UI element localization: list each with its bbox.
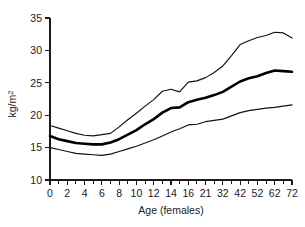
x-tick-label: 0 [47, 187, 53, 199]
x-axis-ticks [50, 180, 292, 185]
y-axis-title-exponent: 2 [6, 91, 15, 95]
axes-group [50, 18, 292, 180]
median-curve [50, 70, 292, 144]
x-tick-label: 14 [165, 187, 177, 199]
y-tick-label: 30 [30, 44, 42, 56]
y-tick-label: 15 [30, 141, 42, 153]
x-tick-label: 42 [234, 187, 246, 199]
y-tick-label: 10 [30, 174, 42, 186]
lower-centile-curve [50, 105, 292, 156]
y-axis-title: kg/m2 [6, 91, 19, 118]
chart-plot-area: 101520253035 0246810121416213242526272 A… [0, 0, 305, 227]
x-tick-label: 2 [64, 187, 70, 199]
x-tick-label: 12 [148, 187, 160, 199]
x-tick-label: 52 [252, 187, 264, 199]
x-tick-label: 6 [99, 187, 105, 199]
y-axis-ticks [45, 18, 50, 180]
y-axis-title-base: kg/m [6, 94, 18, 117]
y-tick-label: 20 [30, 109, 42, 121]
x-tick-label: 32 [217, 187, 229, 199]
upper-centile-curve [50, 32, 292, 136]
x-tick-label: 72 [286, 187, 298, 199]
y-axis-tick-labels: 101520253035 [30, 12, 42, 186]
x-tick-label: 4 [82, 187, 88, 199]
x-tick-label: 21 [200, 187, 212, 199]
x-tick-label: 62 [269, 187, 281, 199]
x-axis-tick-labels: 0246810121416213242526272 [47, 187, 298, 199]
x-tick-label: 8 [116, 187, 122, 199]
x-tick-label: 16 [182, 187, 194, 199]
bmi-centile-chart-figure: 101520253035 0246810121416213242526272 A… [0, 0, 305, 227]
y-tick-label: 35 [30, 12, 42, 24]
y-tick-label: 25 [30, 77, 42, 89]
x-axis-title: Age (females) [138, 204, 203, 216]
x-tick-label: 10 [131, 187, 143, 199]
data-curves-group [50, 32, 292, 155]
